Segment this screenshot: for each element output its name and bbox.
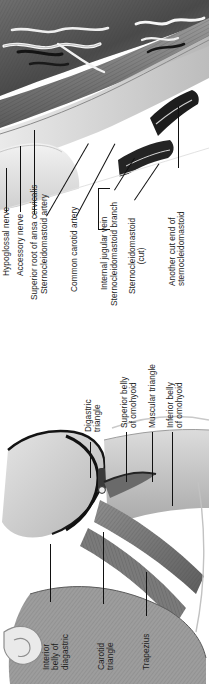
- leader-digastric-triangle: [90, 442, 91, 478]
- label-interior-belly-of-diagastric: Interior belly of diagastric: [42, 634, 70, 670]
- panel-lower-triangles: Digastric triangle Superior belly of omo…: [0, 332, 209, 684]
- label-sternocleidomastoid-cut: Sternocleidomastoid (cut): [128, 218, 147, 294]
- panel-upper-dissection: Hypoglossal nerve Accessory nerve Superi…: [0, 0, 209, 330]
- label-superior-belly-of-omohyoid: Superior belly of omohyoid: [120, 377, 139, 428]
- leader-carotid-triangle: [103, 532, 104, 604]
- leader-muscular-triangle: [152, 432, 153, 482]
- leader-inferior-belly-omohyoid: [172, 432, 173, 506]
- label-sternocleidomastoid-branch: Sternocleidomastoid branch: [110, 202, 119, 306]
- leader-hypoglossal-nerve: [6, 168, 7, 212]
- label-accessory-nerve: Accessory nerve: [16, 214, 25, 276]
- label-another-cut-end-sternocleidomastoid: Another cut end of sternocleidomastoid: [168, 211, 187, 286]
- label-digastric-triangle: Digastric triangle: [84, 399, 103, 432]
- leader-accessory-nerve: [20, 146, 21, 212]
- label-sternocleidomastoid-artery: Sternocleidomastoid artery: [40, 194, 49, 294]
- label-hypoglossal-nerve: Hypoglossal nerve: [2, 207, 11, 276]
- label-trapezius: Trapezius: [142, 633, 151, 670]
- leader-superior-belly-omohyoid: [126, 432, 127, 482]
- label-common-carotid-artery: Common carotid artery: [70, 207, 79, 292]
- label-inferior-belly-of-omohyoid: Inferior belly of omohyoid: [166, 382, 185, 428]
- anatomy-plate: Hypoglossal nerve Accessory nerve Superi…: [0, 0, 209, 684]
- label-superior-root-ansa-cervicalis: Superior root of ansa cervicalis: [30, 184, 39, 300]
- label-internal-jugular-vein: Internal jugular vein: [100, 217, 109, 290]
- leader-interior-belly-diagastric: [50, 544, 51, 602]
- leader-another-cut-end: [178, 106, 179, 168]
- label-carotid-triangle: Carotid triangle: [97, 642, 116, 670]
- leader-trapezius: [146, 572, 147, 616]
- label-muscular-triangle: Muscular triangle: [148, 364, 157, 428]
